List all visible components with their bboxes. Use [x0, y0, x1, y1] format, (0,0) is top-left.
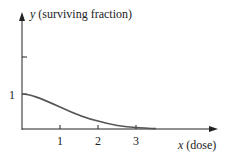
x-tick-label-3: 3: [133, 134, 139, 148]
y-axis-label: y (surviving fraction): [29, 7, 132, 21]
x-tick-label-1: 1: [57, 134, 63, 148]
x-tick-label-2: 2: [95, 134, 101, 148]
y-tick-label-1: 1: [9, 88, 15, 102]
chart: y (surviving fraction) 1 1 2 3 x (dose): [0, 0, 228, 154]
y-axis-arrow-icon: [19, 12, 25, 21]
x-axis-label: x (dose): [177, 138, 216, 152]
survival-curve: [22, 94, 156, 129]
x-axis-arrow-icon: [209, 126, 218, 132]
